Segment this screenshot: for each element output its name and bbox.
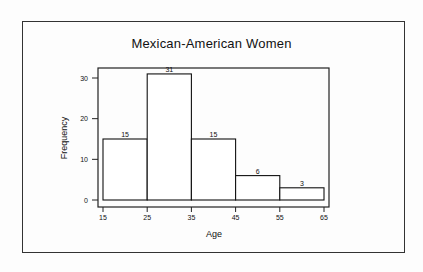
histogram-bar — [103, 139, 147, 200]
bar-value-label: 15 — [121, 131, 129, 138]
histogram-bar — [280, 188, 324, 200]
x-tick-label: 15 — [99, 214, 107, 221]
x-axis-label: Age — [206, 229, 222, 239]
histogram-plot: 153115630102030152535455565AgeFrequency — [0, 0, 423, 272]
bar-value-label: 15 — [210, 131, 218, 138]
y-axis-label: Frequency — [59, 116, 69, 159]
y-tick-label: 0 — [84, 197, 88, 204]
y-tick-label: 20 — [80, 115, 88, 122]
bar-value-label: 3 — [300, 180, 304, 187]
y-tick-label: 10 — [80, 156, 88, 163]
x-tick-label: 65 — [320, 214, 328, 221]
histogram-bar — [147, 74, 191, 200]
histogram-bar — [191, 139, 235, 200]
y-tick-label: 30 — [80, 75, 88, 82]
x-tick-label: 45 — [232, 214, 240, 221]
histogram-bar — [236, 176, 280, 200]
x-tick-label: 55 — [276, 214, 284, 221]
bar-value-label: 6 — [256, 168, 260, 175]
x-tick-label: 35 — [188, 214, 196, 221]
bar-value-label: 31 — [165, 66, 173, 73]
chart-page: Mexican-American Women 15311563010203015… — [0, 0, 423, 272]
x-tick-label: 25 — [143, 214, 151, 221]
